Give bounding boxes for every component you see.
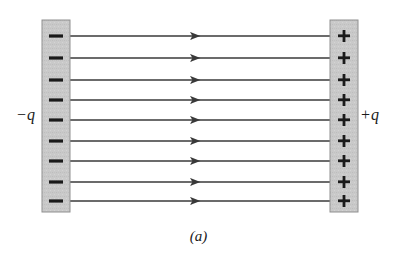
plus-sign-icon	[338, 78, 350, 81]
field-diagram-canvas	[0, 0, 397, 261]
plus-sign-icon	[338, 159, 350, 162]
field-line-group	[70, 36, 330, 201]
negative-charge-label: −q	[16, 106, 35, 124]
minus-sign-icon	[49, 118, 63, 121]
capacitor-field-figure: −q +q (a)	[0, 0, 397, 261]
negative-plate	[42, 20, 70, 212]
positive-charge-label: +q	[360, 106, 379, 124]
plus-sign-icon	[338, 139, 350, 142]
minus-sign-icon	[49, 78, 63, 81]
minus-sign-icon	[49, 139, 63, 142]
minus-sign-icon	[49, 98, 63, 101]
minus-sign-icon	[49, 199, 63, 202]
minus-sign-icon	[49, 159, 63, 162]
plus-sign-icon	[338, 56, 350, 59]
plus-sign-icon	[338, 98, 350, 101]
minus-sign-icon	[49, 56, 63, 59]
plus-sign-icon	[338, 118, 350, 121]
plus-sign-icon	[338, 199, 350, 202]
positive-sign-group	[338, 30, 350, 207]
plus-sign-icon	[338, 34, 350, 37]
minus-sign-icon	[49, 180, 63, 183]
plus-sign-icon	[338, 180, 350, 183]
figure-caption: (a)	[0, 228, 397, 245]
minus-sign-icon	[49, 34, 63, 37]
positive-plate	[330, 20, 358, 212]
